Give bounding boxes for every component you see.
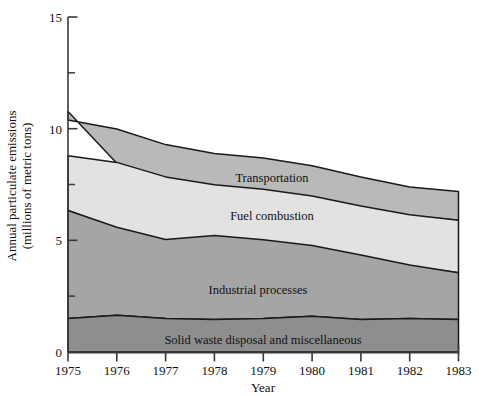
area-chart: Transportation Fuel combustion Industria…	[0, 0, 479, 396]
series-label-industrial-processes: Industrial processes	[209, 283, 308, 297]
series-label-solid-waste: Solid waste disposal and miscellaneous	[164, 333, 361, 347]
series-label-fuel-combustion: Fuel combustion	[230, 209, 314, 223]
x-axis-title: Year	[251, 380, 276, 395]
y-tick-label-10: 10	[49, 122, 62, 137]
y-tick-label-5: 5	[56, 233, 63, 248]
x-tick-label-1978: 1978	[201, 363, 227, 378]
x-tick-label-1980: 1980	[299, 363, 325, 378]
y-tick-label-15: 15	[49, 10, 62, 25]
x-tick-label-1982: 1982	[397, 363, 423, 378]
x-tick-label-1979: 1979	[250, 363, 276, 378]
y-tick-label-0: 0	[56, 345, 63, 360]
x-tick-label-1981: 1981	[348, 363, 374, 378]
y-axis-title-line1: Annual particulate emissions	[4, 111, 19, 262]
y-axis-title-line2: (millions of metric tons)	[19, 123, 34, 250]
x-tick-label-1977: 1977	[153, 363, 180, 378]
x-tick-label-1975: 1975	[55, 363, 81, 378]
series-label-transportation: Transportation	[235, 171, 309, 185]
x-tick-label-1983: 1983	[446, 363, 472, 378]
x-tick-label-1976: 1976	[104, 363, 131, 378]
